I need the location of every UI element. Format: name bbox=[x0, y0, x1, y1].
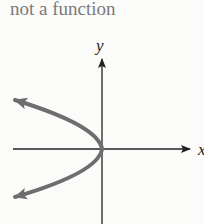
x-axis-label: x bbox=[197, 140, 204, 159]
y-axis-label: y bbox=[94, 36, 104, 55]
curve-upper-branch bbox=[15, 100, 102, 149]
graph: y x bbox=[0, 0, 204, 224]
curve-lower-branch bbox=[15, 149, 102, 197]
